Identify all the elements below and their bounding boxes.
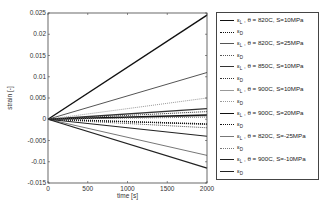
x-axis-label: time [s] (117, 192, 138, 200)
legend-item: εD (220, 166, 243, 177)
legend-label: εD (237, 27, 243, 36)
legend-item: εL , θ = 900C, S=10MPa (220, 85, 304, 96)
legend-label: εL , θ = 820C, S=25MPa (237, 39, 304, 48)
x-tick-label: 2000 (200, 185, 215, 192)
legend-swatch (220, 78, 234, 79)
y-tick-label: 0 (42, 115, 46, 122)
y-tick-label: -0.005 (28, 137, 47, 144)
x-tick-label: 1000 (120, 185, 135, 192)
legend-label: εL , θ = 850C, S=10MPa (237, 62, 304, 71)
legend-item: εL , θ = 900C, S=-10MPa (220, 154, 306, 165)
y-tick-label: 0.015 (30, 52, 47, 59)
legend-item: εL , θ = 900C, S=20MPa (220, 108, 304, 119)
legend-label: εL , θ = 820C, S=10MPa (237, 16, 304, 25)
x-tick-label: 0 (46, 185, 50, 192)
legend-label: εL , θ = 900C, S=-10MPa (237, 155, 306, 164)
legend-label: εD (237, 120, 243, 129)
series-line-0 (48, 15, 207, 119)
y-tick-label: -0.01 (31, 158, 46, 165)
series-line-13 (48, 119, 207, 168)
legend-label: εD (237, 74, 243, 83)
legend-swatch (220, 90, 234, 91)
legend-swatch (220, 159, 234, 160)
legend-item: εD (220, 119, 243, 130)
y-tick-label: 0.02 (33, 30, 46, 37)
legend-item: εL , θ = 820C, S=-25MPa (220, 131, 306, 142)
legend-swatch (220, 66, 234, 67)
legend-label: εD (237, 97, 243, 106)
series-line-12 (48, 119, 207, 136)
series-line-2 (48, 73, 207, 120)
axis-ticks: 05001000150020000.0250.020.0150.010.0050… (28, 9, 215, 192)
legend-item: εD (220, 96, 243, 107)
x-tick-label: 500 (82, 185, 93, 192)
legend-item: εD (220, 143, 243, 154)
legend-swatch (220, 20, 234, 21)
legend-swatch (220, 171, 234, 172)
y-axis-label: strain [-] (6, 86, 14, 110)
legend-swatch (220, 43, 234, 44)
y-tick-label: 0.025 (30, 9, 47, 16)
legend-swatch (220, 32, 234, 33)
legend-item: εD (220, 50, 243, 61)
legend-item: εL , θ = 820C, S=10MPa (220, 15, 304, 26)
y-tick-label: 0.005 (30, 94, 47, 101)
legend-swatch (220, 124, 234, 125)
y-tick-label: -0.015 (28, 179, 47, 186)
legend-label: εD (237, 143, 243, 152)
legend-swatch (220, 148, 234, 149)
legend-item: εL , θ = 820C, S=25MPa (220, 38, 304, 49)
plot-lines (48, 15, 207, 168)
legend-swatch (220, 55, 234, 56)
y-tick-label: 0.01 (33, 73, 46, 80)
legend-label: εL , θ = 820C, S=-25MPa (237, 132, 306, 141)
legend-swatch (220, 101, 234, 102)
legend-label: εD (237, 167, 243, 176)
legend-item: εD (220, 27, 243, 38)
plot-area-frame (48, 13, 207, 183)
legend-item: εD (220, 73, 243, 84)
legend-item: εL , θ = 850C, S=10MPa (220, 61, 304, 72)
series-line-10 (48, 119, 207, 155)
x-tick-label: 1500 (160, 185, 175, 192)
legend-label: εD (237, 51, 243, 60)
legend-swatch (220, 136, 234, 137)
chart-legend: εL , θ = 820C, S=10MPaεDεL , θ = 820C, S… (216, 12, 319, 180)
legend-swatch (220, 113, 234, 114)
legend-label: εL , θ = 900C, S=10MPa (237, 85, 304, 94)
legend-label: εL , θ = 900C, S=20MPa (237, 109, 304, 118)
